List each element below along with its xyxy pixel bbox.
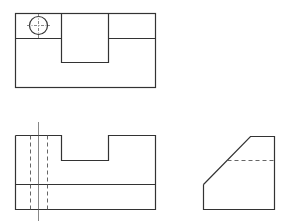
top-view-outline bbox=[16, 14, 156, 88]
orthographic-drawing bbox=[0, 0, 283, 224]
top-view-slot bbox=[62, 14, 109, 63]
front-view-outline bbox=[16, 136, 156, 210]
top-view bbox=[16, 14, 156, 88]
front-view bbox=[16, 122, 156, 221]
side-view-outline bbox=[204, 137, 275, 210]
side-view bbox=[204, 137, 275, 210]
